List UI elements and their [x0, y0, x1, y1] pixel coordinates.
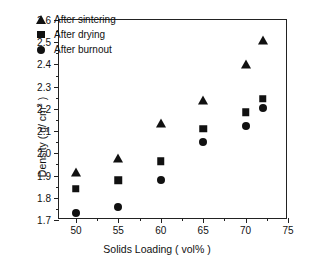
density-vs-solids-loading-chart: 2.62.52.42.32.22.12.01.91.81.75055606570…	[0, 0, 314, 273]
y-axis-title-tail: )	[36, 96, 48, 102]
y-axis-title: Density ( g/ cm3 )	[36, 96, 49, 176]
x-axis-tick-label: 65	[198, 225, 209, 236]
triangle-marker-icon	[34, 15, 48, 24]
y-axis-tick	[54, 176, 59, 177]
x-axis-minor-tick	[140, 218, 141, 221]
y-axis-tick	[54, 153, 59, 154]
x-axis-tick-label: 70	[240, 225, 251, 236]
y-axis-tick-label: 2.4	[37, 59, 51, 70]
data-point-square	[259, 95, 267, 103]
data-point-triangle	[113, 153, 123, 162]
y-axis-tick-label: 2.3	[37, 81, 51, 92]
data-point-circle	[242, 122, 250, 130]
data-point-square	[115, 176, 123, 184]
data-point-square	[157, 157, 165, 165]
y-axis-tick	[54, 131, 59, 132]
y-axis-tick	[54, 109, 59, 110]
data-point-square	[199, 125, 207, 133]
y-axis-tick-label: 1.7	[37, 215, 51, 226]
x-axis-title: Solids Loading ( vol% )	[0, 243, 314, 255]
circle-marker-icon	[34, 46, 48, 54]
x-axis-tick-label: 75	[282, 225, 293, 236]
x-axis-minor-tick	[267, 218, 268, 221]
x-axis-tick	[203, 218, 204, 223]
x-axis-minor-tick	[97, 218, 98, 221]
y-axis-tick	[54, 87, 59, 88]
y-axis-tick	[54, 64, 59, 65]
legend-item: After burnout	[34, 42, 116, 57]
y-axis-tick	[54, 198, 59, 199]
x-axis-tick	[161, 218, 162, 223]
legend-label: After drying	[54, 29, 105, 40]
y-axis-minor-tick	[56, 120, 59, 121]
x-axis-minor-tick	[224, 218, 225, 221]
data-point-triangle	[241, 60, 251, 69]
y-axis-title-main: Density ( g/ cm	[36, 107, 48, 177]
x-axis-tick-label: 50	[70, 225, 81, 236]
legend-label: After burnout	[54, 44, 112, 55]
y-axis-minor-tick	[56, 98, 59, 99]
y-axis-minor-tick	[56, 164, 59, 165]
y-axis-tick-label: 1.8	[37, 192, 51, 203]
legend-label: After sintering	[54, 14, 116, 25]
y-axis-minor-tick	[56, 76, 59, 77]
square-marker-icon	[34, 31, 48, 39]
data-point-circle	[114, 203, 122, 211]
x-axis-tick-label: 55	[113, 225, 124, 236]
x-axis-tick	[118, 218, 119, 223]
x-axis-tick	[288, 218, 289, 223]
data-point-triangle	[198, 96, 208, 105]
legend-item: After drying	[34, 27, 116, 42]
y-axis-minor-tick	[56, 187, 59, 188]
data-point-circle	[72, 209, 80, 217]
data-point-triangle	[258, 36, 268, 45]
x-axis-minor-tick	[182, 218, 183, 221]
data-point-square	[242, 108, 250, 116]
y-axis-minor-tick	[56, 209, 59, 210]
data-point-circle	[199, 138, 207, 146]
data-point-circle	[259, 104, 267, 112]
data-point-triangle	[71, 168, 81, 177]
x-axis-tick	[76, 218, 77, 223]
legend-item: After sintering	[34, 12, 116, 27]
data-point-circle	[157, 176, 165, 184]
data-point-triangle	[156, 119, 166, 128]
chart-legend: After sintering After drying After burno…	[34, 12, 116, 57]
y-axis-title-exponent: 3	[36, 103, 43, 107]
x-axis-tick-label: 60	[155, 225, 166, 236]
data-point-square	[72, 185, 80, 193]
y-axis-minor-tick	[56, 142, 59, 143]
y-axis-tick	[54, 220, 59, 221]
x-axis-tick	[246, 218, 247, 223]
